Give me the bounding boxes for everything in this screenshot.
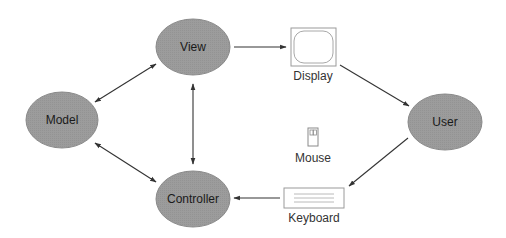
node-user[interactable]: User: [408, 94, 482, 150]
device-display[interactable]: Display: [291, 28, 336, 83]
monitor-icon: [291, 28, 336, 66]
edge-display-user: [340, 65, 409, 106]
device-mouse[interactable]: Mouse: [295, 128, 331, 165]
device-display-label: Display: [293, 69, 332, 83]
node-model[interactable]: Model: [26, 92, 98, 148]
edges: [95, 47, 409, 198]
node-controller-label: Controller: [167, 192, 219, 206]
node-view-label: View: [180, 40, 206, 54]
edge-model-controller: [95, 143, 156, 182]
mvc-diagram: View Model Controller User Display Mouse: [0, 0, 506, 238]
device-mouse-label: Mouse: [295, 151, 331, 165]
node-model-label: Model: [46, 113, 79, 127]
edge-user-keyboard: [349, 138, 408, 186]
edge-model-view: [95, 64, 156, 102]
node-view[interactable]: View: [156, 19, 230, 75]
mouse-icon: [308, 128, 318, 146]
node-user-label: User: [432, 115, 457, 129]
device-keyboard-label: Keyboard: [288, 211, 339, 225]
node-controller[interactable]: Controller: [156, 171, 230, 227]
keyboard-icon: [284, 188, 344, 208]
device-keyboard[interactable]: Keyboard: [284, 188, 344, 225]
